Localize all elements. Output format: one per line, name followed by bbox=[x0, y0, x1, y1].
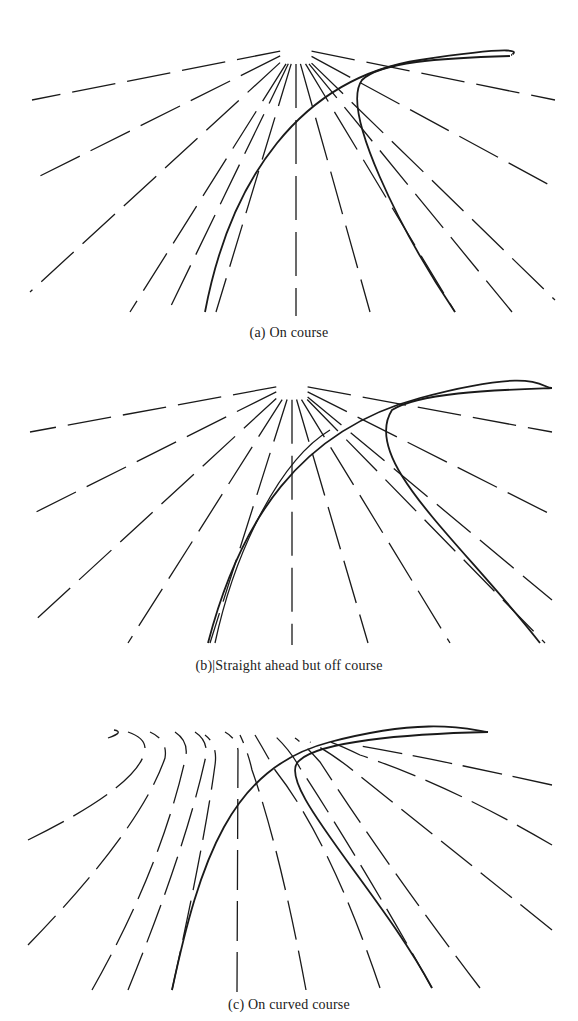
panel-c-on-curved-course: (c) On curved course bbox=[0, 690, 578, 1021]
road-edge-right bbox=[295, 732, 488, 988]
flow-curve bbox=[275, 736, 432, 988]
flow-curve bbox=[28, 732, 145, 840]
road-edge-left-inner bbox=[215, 430, 330, 643]
flow-line bbox=[308, 397, 552, 600]
flow-curve bbox=[28, 732, 165, 945]
road-edge-left bbox=[208, 381, 552, 643]
flow-line bbox=[30, 63, 280, 292]
flow-line bbox=[297, 400, 368, 643]
flow-curve bbox=[255, 735, 380, 988]
flow-line bbox=[32, 51, 280, 100]
flow-curve bbox=[108, 730, 118, 738]
flow-line bbox=[306, 64, 455, 312]
flow-diagram-b bbox=[0, 350, 578, 655]
flow-line bbox=[308, 392, 552, 515]
flow-line bbox=[308, 387, 552, 432]
flow-line bbox=[32, 56, 280, 180]
panel-b-straight-ahead-off-course: (b)|Straight ahead but off course bbox=[0, 350, 578, 690]
caption-c: (c) On curved course bbox=[0, 997, 578, 1013]
flow-line bbox=[301, 400, 450, 643]
flow-line bbox=[168, 64, 288, 312]
flow-line bbox=[130, 64, 286, 312]
road-edge-right bbox=[386, 388, 552, 643]
flow-line bbox=[210, 400, 287, 643]
caption-a: (a) On course bbox=[0, 325, 578, 341]
flow-curve bbox=[295, 738, 480, 988]
flow-line bbox=[216, 64, 291, 312]
caption-b: (b)|Straight ahead but off course bbox=[0, 658, 578, 674]
flow-line bbox=[30, 392, 276, 515]
flow-curve bbox=[128, 732, 206, 990]
flow-curve bbox=[92, 732, 186, 990]
flow-line bbox=[309, 64, 512, 312]
flow-line bbox=[30, 387, 276, 432]
flow-line bbox=[30, 398, 276, 625]
road-edge-left bbox=[172, 726, 488, 990]
flow-diagram-a bbox=[0, 0, 578, 320]
panel-a-on-course: (a) On course bbox=[0, 0, 578, 350]
road-edge-right bbox=[357, 56, 510, 312]
flow-line bbox=[128, 400, 282, 643]
flow-line bbox=[312, 63, 555, 300]
flow-curve bbox=[225, 732, 238, 992]
flow-curve bbox=[325, 740, 552, 845]
flow-diagram-c bbox=[0, 690, 578, 995]
flow-line bbox=[300, 64, 370, 312]
flow-curve bbox=[172, 735, 216, 990]
flow-curve bbox=[310, 742, 552, 930]
